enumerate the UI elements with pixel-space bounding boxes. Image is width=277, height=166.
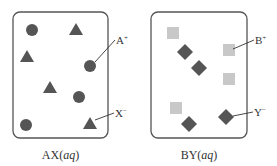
panel-caption: BY(aq)	[181, 148, 218, 162]
ion-label-x: X−	[115, 107, 127, 119]
anion-diamond-icon	[191, 60, 207, 76]
cation-circle-icon	[26, 24, 38, 36]
ion-label-b: B+	[255, 34, 266, 46]
panel-ax-solution: A+X−AX(aq)	[13, 12, 128, 162]
ion-label-a: A+	[116, 34, 128, 46]
anion-diamond-icon	[177, 44, 193, 60]
callout-line	[233, 40, 254, 49]
anion-triangle-icon	[20, 50, 34, 62]
cation-square-icon	[167, 27, 179, 39]
anion-triangle-icon	[83, 117, 97, 129]
ionic-solutions-diagram: A+X−AX(aq) B+Y−BY(aq)	[0, 0, 277, 166]
panel-by-solution: B+Y−BY(aq)	[151, 12, 266, 162]
anion-triangle-icon	[43, 81, 57, 93]
anion-diamond-icon	[181, 116, 197, 132]
anion-diamond-icon	[218, 109, 234, 125]
anion-triangle-icon	[69, 23, 83, 35]
panel-caption: AX(aq)	[42, 148, 79, 162]
callout-line	[95, 40, 115, 62]
cation-square-icon	[223, 44, 235, 56]
cation-square-icon	[223, 73, 235, 85]
ion-label-y: Y−	[254, 106, 266, 118]
cation-circle-icon	[73, 91, 85, 103]
cation-square-icon	[170, 102, 182, 114]
callout-line	[233, 112, 253, 116]
callout-line	[95, 113, 114, 120]
cation-circle-icon	[20, 119, 32, 131]
cation-circle-icon	[84, 60, 96, 72]
